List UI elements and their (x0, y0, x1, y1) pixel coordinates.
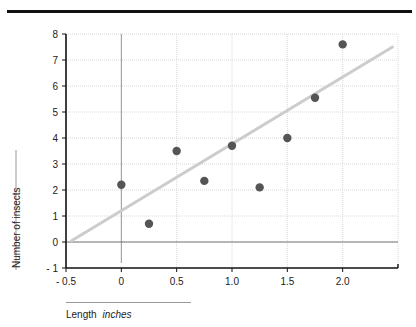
y-tick-label: 4 (52, 133, 58, 144)
data-point (311, 94, 319, 102)
y-axis-label: Number of insects (11, 187, 22, 268)
x-tick-label: 0.5 (170, 276, 184, 287)
y-tick-label: 6 (52, 81, 58, 92)
data-point (145, 220, 153, 228)
y-axis-label-container: Number of insects (6, 150, 24, 270)
y-tick-label: 3 (52, 159, 58, 170)
scatter-chart: - 1012345678- 0.500.51.01.52.0 (0, 0, 416, 327)
data-point (255, 183, 263, 191)
x-axis-label: Lengthinches (66, 302, 191, 320)
y-tick-label: 1 (52, 211, 58, 222)
x-tick-label: 0 (119, 276, 125, 287)
data-point (117, 181, 125, 189)
y-tick-label: 8 (52, 29, 58, 40)
y-tick-label: 0 (52, 237, 58, 248)
data-point (283, 134, 291, 142)
x-tick-label: 1.5 (280, 276, 294, 287)
x-axis-label-text: Length (66, 309, 97, 320)
data-point (338, 40, 346, 48)
x-tick-label: 2.0 (336, 276, 350, 287)
x-tick-label: - 0.5 (56, 276, 76, 287)
x-axis-unit: inches (103, 309, 132, 320)
x-tick-label: 1.0 (225, 276, 239, 287)
x-label-rule (66, 302, 191, 303)
y-tick-label: 2 (52, 185, 58, 196)
data-point (172, 147, 180, 155)
data-point (200, 177, 208, 185)
data-point (228, 142, 236, 150)
y-tick-label: 7 (52, 55, 58, 66)
y-tick-label: - 1 (46, 263, 58, 274)
y-tick-label: 5 (52, 107, 58, 118)
